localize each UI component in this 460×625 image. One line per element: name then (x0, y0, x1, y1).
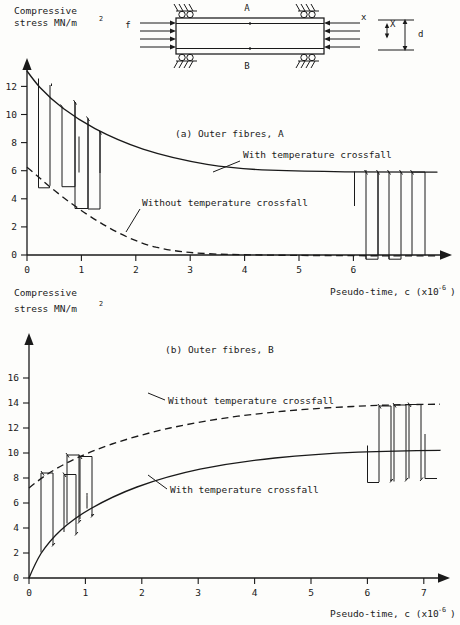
depth-dimension: d X (378, 19, 423, 51)
panel-b-ylabel-line1: Compressive (14, 287, 77, 298)
panel-a-xlabel-sup: -6 (438, 284, 446, 292)
panel-b-ylabel-sup: 2 (99, 300, 103, 308)
diagram-label-b: B (244, 61, 249, 71)
panel-b-ann-with: With temperature crossfall (170, 484, 319, 495)
panel-b-ann-without: Without temperature crossfall (168, 395, 334, 406)
panel-b-leader-without (148, 393, 165, 400)
panel-a-xtick-3: 3 (187, 264, 193, 275)
panel-b-ytick-8: 8 (13, 472, 19, 483)
panel-a-ytick-10: 10 (6, 109, 18, 120)
panel-b-xtick-2: 2 (139, 587, 145, 598)
panel-a-xtick-2: 2 (133, 264, 139, 275)
panel-b-ytick-10: 10 (8, 447, 20, 458)
point-a-marker (249, 22, 251, 24)
panel-a-ytick-2: 2 (11, 221, 17, 232)
support-top-right (296, 4, 319, 18)
panel-b-xtick-5: 5 (308, 587, 314, 598)
panel-a-ytick-6: 6 (11, 165, 17, 176)
panel-a-xtick-5: 5 (296, 264, 302, 275)
load-arrows-left (140, 20, 176, 49)
panel-b-xlabel: Pseudo-time, c (x10 (330, 608, 439, 619)
panel-a-xtick-0: 0 (24, 264, 30, 275)
diagram-label-f: f (125, 20, 130, 30)
panel-b-ytick-2: 2 (13, 547, 19, 558)
panel-a-xlabel-tail: ) (450, 286, 456, 297)
diagram-label-a: A (244, 3, 250, 13)
panel-a-ylabel-sup: 2 (99, 15, 103, 23)
support-bottom-right (296, 54, 319, 68)
panel-a-ann-with: With temperature crossfall (243, 149, 392, 160)
panel-a-ytick-0: 0 (11, 249, 17, 260)
panel-a-ann-without: Without temperature crossfall (142, 197, 308, 208)
panel-a-xtick-4: 4 (242, 264, 248, 275)
panel-b-curve-with (29, 450, 440, 578)
panel-b-ytick-12: 12 (8, 422, 19, 433)
panel-b-xlabel-tail: ) (450, 608, 456, 619)
panel-b-ytick-6: 6 (13, 497, 19, 508)
panel-b-title: (b) Outer fibres, B (165, 344, 274, 355)
panel-b-xtick-4: 4 (252, 587, 258, 598)
panel-a-ytick-8: 8 (11, 137, 17, 148)
panel-b-xtick-1: 1 (83, 587, 89, 598)
diagram-label-x-axis: x (361, 12, 367, 22)
point-b-marker (249, 47, 251, 49)
diagram-label-x-coord: X (390, 19, 396, 29)
beam-diagram: A B f x d X (125, 3, 423, 71)
panel-b-ytick-16: 16 (8, 372, 20, 383)
panel-b-xlabel-sup: -6 (438, 606, 446, 614)
panel-a-xtick-6: 6 (351, 264, 357, 275)
panel-a-ylabel-line1: Compressive (14, 5, 77, 16)
panel-b-ytick-14: 14 (8, 397, 20, 408)
support-top-left (174, 4, 197, 18)
panel-a-ylabel-line2: stress MN/m (14, 17, 77, 28)
panel-b-xtick-3: 3 (195, 587, 201, 598)
panel-a-xtick-1: 1 (79, 264, 85, 275)
panel-b-xtick-0: 0 (26, 587, 32, 598)
panel-b-axes: 0 2 4 6 8 10 12 14 16 0 1 2 3 4 5 6 7 (8, 333, 450, 598)
panel-a-title: (a) Outer fibres, A (175, 128, 284, 139)
figure-svg: A B f x d X Compressive stress MN/m 2 (0, 0, 460, 625)
panel-b-curve-without (29, 404, 440, 488)
panel-a-sawtooth-left (39, 79, 102, 210)
panel-b: Compressive stress MN/m 2 0 2 4 6 8 10 1… (8, 287, 456, 619)
diagram-label-d: d (418, 29, 423, 39)
panel-a-xlabel: Pseudo-time, c (x10 (330, 286, 439, 297)
panel-b-ylabel-line2: stress MN/m (14, 303, 77, 314)
panel-b-sawtooth-left (41, 453, 94, 553)
panel-a-leader-without (126, 209, 140, 232)
panel-b-xtick-6: 6 (365, 587, 371, 598)
panel-b-ytick-4: 4 (13, 522, 19, 533)
panel-a-leader-with (213, 161, 240, 172)
panel-b-sawtooth-right (368, 403, 438, 483)
load-arrows-right (324, 20, 360, 49)
panel-a-ytick-12: 12 (6, 81, 17, 92)
panel-b-xtick-7: 7 (421, 587, 427, 598)
figure-container: A B f x d X Compressive stress MN/m 2 (0, 0, 460, 625)
panel-b-ytick-0: 0 (13, 572, 19, 583)
panel-a-ytick-4: 4 (11, 193, 17, 204)
panel-a-sawtooth-right (355, 170, 426, 259)
support-bottom-left (174, 54, 197, 68)
